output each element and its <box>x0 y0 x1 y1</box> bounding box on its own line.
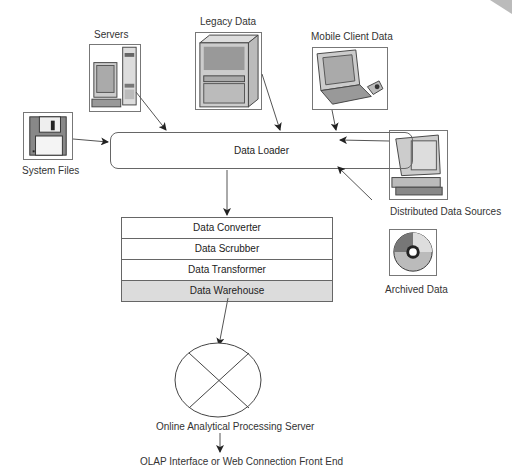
server-computer-icon <box>89 44 141 112</box>
data-transformer-row: Data Transformer <box>122 260 332 281</box>
data-warehouse-row: Data Warehouse <box>122 281 332 301</box>
data-converter-row: Data Converter <box>122 218 332 239</box>
olap-server-icon <box>175 343 261 417</box>
data-loader-box: Data Loader <box>110 132 413 169</box>
mainframe-icon <box>195 32 262 110</box>
floppy-disk-icon <box>23 112 73 160</box>
page-corner-decoration <box>490 0 512 14</box>
processing-stack: Data Converter Data Scrubber Data Transf… <box>121 217 333 302</box>
olap-frontend-label: OLAP Interface or Web Connection Front E… <box>140 456 343 467</box>
archived-data-label: Archived Data <box>385 284 448 295</box>
system-files-label: System Files <box>22 165 79 176</box>
mobile-client-data-label: Mobile Client Data <box>311 31 393 42</box>
legacy-data-label: Legacy Data <box>200 16 256 27</box>
olap-server-label: Online Analytical Processing Server <box>156 421 314 432</box>
laptop-icon <box>312 47 388 110</box>
cd-disc-icon <box>389 229 437 276</box>
data-loader-label: Data Loader <box>234 145 289 156</box>
data-scrubber-row: Data Scrubber <box>122 239 332 260</box>
servers-label: Servers <box>94 29 128 40</box>
distributed-data-sources-label: Distributed Data Sources <box>390 206 501 217</box>
